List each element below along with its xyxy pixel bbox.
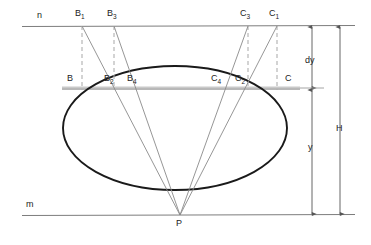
label-dimension-y: y — [308, 143, 313, 152]
label-point-b1: B1 — [75, 9, 85, 20]
ray-p-to-b3 — [114, 26, 180, 215]
label-point-b4-sub: 4 — [133, 78, 137, 85]
ray-p-to-b1 — [82, 26, 180, 215]
label-point-b2: B2 — [104, 74, 114, 85]
line-m — [22, 215, 355, 216]
label-point-c1: C1 — [269, 9, 279, 20]
label-dimension-dy: dy — [305, 56, 315, 65]
label-point-b1-sub: 1 — [81, 13, 85, 20]
geometry-drawing — [0, 0, 371, 245]
label-point-c2: C2 — [235, 74, 245, 85]
label-line-n: n — [37, 11, 42, 20]
label-point-b-base: B — [67, 73, 73, 83]
line-n — [22, 26, 355, 27]
label-point-b3-sub: 3 — [113, 13, 117, 20]
label-point-c3: C3 — [240, 9, 250, 20]
diagram-canvas: n m B1 B3 C3 C1 B B2 B4 C4 C2 C P dy y H — [0, 0, 371, 245]
ray-p-to-c1 — [180, 26, 277, 215]
label-point-c4-sub: 4 — [218, 78, 222, 85]
label-apex-p: P — [176, 219, 182, 228]
label-point-b: B — [67, 74, 73, 85]
label-point-c: C — [285, 74, 292, 85]
label-point-b4: B4 — [127, 74, 137, 85]
label-point-c4: C4 — [211, 74, 221, 85]
label-point-c-base: C — [285, 73, 292, 83]
label-point-c1-sub: 1 — [276, 13, 280, 20]
label-point-b3: B3 — [107, 9, 117, 20]
label-dimension-h: H — [336, 124, 343, 133]
label-point-b2-sub: 2 — [110, 78, 114, 85]
ellipse-outline — [63, 66, 287, 190]
label-point-c2-sub: 2 — [242, 78, 246, 85]
label-point-c3-sub: 3 — [247, 13, 251, 20]
label-line-m: m — [26, 200, 34, 209]
